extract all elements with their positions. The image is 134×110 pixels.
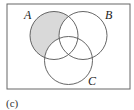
label-b: B	[105, 8, 113, 22]
label-a: A	[23, 8, 32, 22]
label-c: C	[88, 74, 97, 88]
venn-diagram: A B C	[0, 0, 134, 110]
figure-caption: (c)	[6, 97, 18, 109]
